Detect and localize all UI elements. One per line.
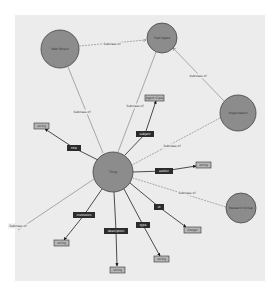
svg-text:subject: subject [140, 132, 152, 136]
class-label: Web Person [51, 47, 69, 51]
svg-text:integer: integer [187, 228, 199, 232]
property-title[interactable]: title [67, 145, 81, 151]
datatype-subject-target[interactable]: Agent Class [145, 95, 164, 101]
property-subject[interactable]: subject [136, 131, 154, 137]
edge-label: Subclass of [189, 74, 207, 78]
edge-label: Subclass of [163, 144, 181, 148]
datatype-id-target[interactable]: integer [184, 227, 201, 233]
class-label: Foaf Agent [154, 36, 171, 40]
edge-label: Subclass of [73, 110, 91, 114]
class-node-organization[interactable]: Organization [220, 95, 256, 131]
svg-text:id: id [158, 205, 161, 209]
property-institution[interactable]: institution [73, 212, 95, 218]
edge-label: Subclass of [103, 42, 121, 46]
svg-text:title: title [71, 146, 77, 150]
class-label: Research Group [229, 206, 253, 210]
svg-text:description: description [108, 229, 125, 233]
svg-text:string: string [37, 124, 46, 128]
svg-text:string: string [57, 241, 66, 245]
datatype-institution-target[interactable]: string [54, 240, 69, 246]
property-description[interactable]: description [104, 228, 128, 234]
class-node-web-person[interactable]: Web Person [41, 30, 79, 68]
subclass-labels: Subclass of Subclass of Subclass of Subc… [8, 42, 208, 229]
svg-text:institution: institution [76, 213, 91, 217]
datatype-type-target[interactable]: string [154, 256, 169, 262]
svg-text:string: string [157, 257, 166, 261]
class-node-foaf-agent[interactable]: Foaf Agent [147, 23, 177, 53]
svg-text:Agent Class: Agent Class [146, 96, 164, 100]
svg-text:author: author [159, 169, 170, 173]
class-node-center[interactable]: Thing [93, 152, 133, 192]
edge-center-ext[interactable] [18, 179, 94, 230]
class-node-research-group[interactable]: Research Group [226, 193, 256, 223]
subclass-edges [18, 40, 226, 230]
datatype-description-target[interactable]: string [110, 267, 125, 273]
class-label: Organization [228, 111, 247, 115]
edge-label: Subclass of [178, 191, 196, 195]
svg-text:string: string [113, 268, 122, 272]
svg-text:string: string [199, 163, 208, 167]
edge-c3-center[interactable] [132, 118, 220, 165]
class-label: Thing [108, 170, 117, 174]
datatype-author-target[interactable]: string [196, 162, 211, 168]
svg-text:type: type [140, 223, 147, 227]
property-type[interactable]: type [136, 222, 150, 228]
edge-label: Subclass of [9, 224, 27, 228]
edge-label: Subclass of [126, 104, 144, 108]
datatype-title-target[interactable]: string [34, 123, 49, 129]
property-author[interactable]: author [155, 168, 173, 174]
ontology-graph: Subclass of Subclass of Subclass of Subc… [0, 0, 277, 294]
property-id[interactable]: id [154, 204, 164, 210]
